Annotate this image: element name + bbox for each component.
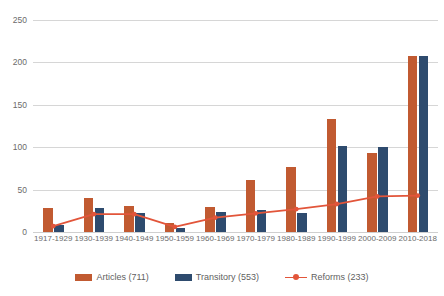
x-axis-tick-label: 2010-2018 <box>399 234 437 244</box>
bar-group <box>317 20 358 232</box>
legend-item[interactable]: Articles (711) <box>75 272 148 282</box>
bar-group <box>155 20 196 232</box>
y-axis-tick-label: 0 <box>22 228 27 237</box>
bar-transitory <box>216 212 226 232</box>
x-axis: 1917-19291930-19391940-19491950-19591960… <box>33 234 438 250</box>
x-axis-tick-label: 1960-1969 <box>196 234 234 244</box>
bar-articles <box>327 119 337 232</box>
bar-articles <box>246 180 256 232</box>
y-axis-tick-label: 50 <box>18 185 27 194</box>
bar-articles <box>84 198 94 232</box>
legend-label: Transitory (553) <box>196 272 259 282</box>
x-axis-tick-label: 1990-1999 <box>318 234 356 244</box>
legend-line-marker-icon <box>285 273 307 282</box>
x-axis-tick-label: 1950-1959 <box>156 234 194 244</box>
bar-articles <box>165 223 175 232</box>
bar-articles <box>367 153 377 232</box>
bar-articles <box>43 208 53 232</box>
bar-articles <box>286 167 296 232</box>
bar-transitory <box>257 210 267 232</box>
bar-groups <box>33 20 438 232</box>
x-axis-tick-label: 1940-1949 <box>115 234 153 244</box>
legend-item[interactable]: Transitory (553) <box>175 272 259 282</box>
legend-swatch-icon <box>175 274 192 281</box>
bar-transitory <box>176 228 186 232</box>
legend-label: Reforms (233) <box>311 272 369 282</box>
y-axis-tick-label: 200 <box>13 58 27 67</box>
bar-group <box>195 20 236 232</box>
legend-item[interactable]: Reforms (233) <box>285 272 369 282</box>
legend-swatch-icon <box>75 274 92 281</box>
bar-articles <box>205 207 215 232</box>
bar-group <box>276 20 317 232</box>
bar-transitory <box>95 208 105 232</box>
plot-area <box>33 20 438 232</box>
bar-group <box>357 20 398 232</box>
bar-transitory <box>378 147 388 232</box>
bar-transitory <box>54 225 64 232</box>
x-axis-tick-label: 1980-1989 <box>277 234 315 244</box>
x-axis-tick-label: 2000-2009 <box>358 234 396 244</box>
bar-transitory <box>297 213 307 232</box>
bar-group <box>74 20 115 232</box>
y-axis-tick-label: 100 <box>13 143 27 152</box>
y-axis-tick-label: 150 <box>13 100 27 109</box>
bar-articles <box>124 206 134 232</box>
gridline <box>33 232 438 233</box>
bar-transitory <box>419 56 429 232</box>
bar-group <box>236 20 277 232</box>
x-axis-tick-label: 1917-1929 <box>34 234 72 244</box>
y-axis: 050100150200250 <box>0 0 33 252</box>
bar-transitory <box>135 213 145 232</box>
bar-group <box>114 20 155 232</box>
legend-label: Articles (711) <box>96 272 148 282</box>
x-axis-tick-label: 1970-1979 <box>237 234 275 244</box>
bar-group <box>398 20 439 232</box>
bar-transitory <box>338 146 348 232</box>
chart-container: 050100150200250 1917-19291930-19391940-1… <box>0 0 444 296</box>
chart-legend: Articles (711)Transitory (553)Reforms (2… <box>0 269 444 285</box>
y-axis-tick-label: 250 <box>13 16 27 25</box>
bar-group <box>33 20 74 232</box>
x-axis-tick-label: 1930-1939 <box>75 234 113 244</box>
bar-articles <box>408 56 418 232</box>
